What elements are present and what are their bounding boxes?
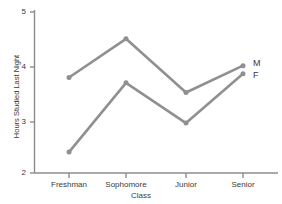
x-tick-label-sophomore: Sophomore xyxy=(105,180,146,189)
plot-area xyxy=(0,0,282,204)
x-tick-marks xyxy=(69,173,243,178)
series-label-f: F xyxy=(253,70,259,80)
data-point xyxy=(67,150,72,155)
x-tick-label-junior: Junior xyxy=(175,180,197,189)
data-point xyxy=(184,90,189,95)
data-point xyxy=(124,80,129,85)
line-chart: 5 4 3 2 Freshman Sophomore Junior Senior… xyxy=(0,0,282,204)
series-markers-f xyxy=(67,71,246,154)
y-axis-title: Hours Studied Last Night xyxy=(12,37,21,157)
data-point xyxy=(184,121,189,126)
data-point xyxy=(241,63,246,68)
y-tick-label-2: 2 xyxy=(10,168,26,177)
x-tick-label-freshman: Freshman xyxy=(51,180,87,189)
data-point xyxy=(241,71,246,76)
x-tick-label-senior: Senior xyxy=(231,180,254,189)
x-axis-title: Class xyxy=(0,191,282,200)
series-label-m: M xyxy=(253,58,261,68)
data-point xyxy=(67,75,72,80)
data-point xyxy=(124,36,129,41)
data-series-group xyxy=(67,36,246,154)
series-line-f xyxy=(69,74,243,152)
series-line-m xyxy=(69,39,243,93)
y-tick-label-5: 5 xyxy=(10,7,26,16)
